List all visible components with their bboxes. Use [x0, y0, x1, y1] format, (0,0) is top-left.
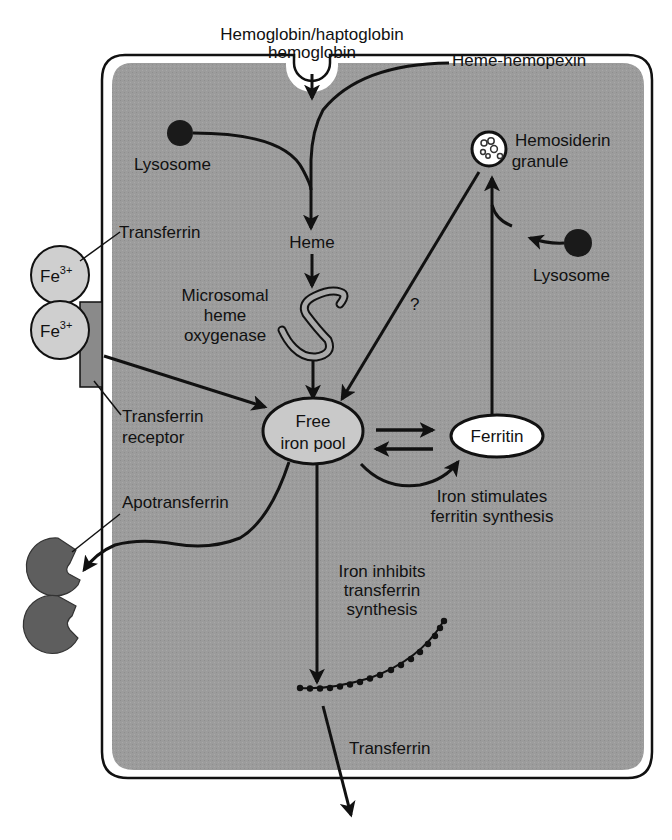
free-iron-label-line1: Free: [296, 412, 331, 431]
microsomal-label-line2: heme: [204, 306, 247, 325]
free-iron-pool-node: [263, 398, 363, 464]
lysosome-left-icon: [167, 120, 193, 146]
lysosome-right-label: Lysosome: [533, 266, 610, 285]
iron-stimulates-label-line2: ferritin synthesis: [431, 507, 554, 526]
iron-metabolism-diagram: Hemoglobin/haptoglobin hemoglobin Heme-h…: [0, 0, 672, 840]
hemosiderin-granule-icon: [472, 132, 506, 166]
free-iron-label-line2: iron pool: [280, 434, 345, 453]
apotransferrin-label: Apotransferrin: [122, 493, 229, 512]
transferrin-bottom-label: Transferrin: [349, 739, 431, 758]
question-mark-label: ?: [410, 295, 419, 314]
microsomal-label-line3: oxygenase: [184, 326, 266, 345]
lysosome-left-label: Lysosome: [134, 155, 211, 174]
hemosiderin-label-line2: granule: [512, 152, 569, 171]
lysosome-right-icon: [564, 229, 592, 257]
ferritin-label: Ferritin: [471, 427, 524, 446]
hemosiderin-label-line1: Hemosiderin: [515, 131, 610, 150]
heme-label: Heme: [289, 233, 334, 252]
apotransferrin-icon: [23, 538, 80, 654]
transferrin-receptor-label-line1: Transferrin: [122, 407, 204, 426]
iron-inhibits-label-line3: synthesis: [347, 600, 418, 619]
microsomal-label-line1: Microsomal: [182, 286, 269, 305]
hemoglobin-label-line1: Hemoglobin/haptoglobin: [220, 25, 403, 44]
iron-inhibits-label-line1: Iron inhibits: [339, 562, 426, 581]
transferrin-top-label: Transferrin: [119, 223, 201, 242]
iron-stimulates-label-line1: Iron stimulates: [437, 487, 548, 506]
transferrin-receptor-label-line2: receptor: [122, 428, 185, 447]
iron-inhibits-label-line2: transferrin: [344, 581, 421, 600]
hemoglobin-label-line2: hemoglobin: [268, 43, 356, 62]
heme-hemopexin-label: Heme-hemopexin: [452, 51, 586, 70]
